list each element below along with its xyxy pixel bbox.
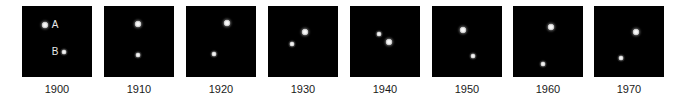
star-b xyxy=(471,54,476,59)
frame-1950: 1950 xyxy=(432,0,514,102)
star-field-panel xyxy=(268,6,338,77)
star-a xyxy=(302,29,309,36)
star-a xyxy=(548,24,555,31)
frame-1910: 1910 xyxy=(104,0,186,102)
star-a-label: A xyxy=(52,20,59,30)
star-field-panel: A B xyxy=(22,6,92,77)
star-b xyxy=(290,42,295,47)
star-b xyxy=(212,52,217,57)
star-field-panel xyxy=(350,6,420,77)
frame-1970: 1970 xyxy=(594,0,676,102)
frame-1900: A B 1900 xyxy=(22,0,104,102)
frame-1960: 1960 xyxy=(513,0,595,102)
star-a xyxy=(135,21,142,28)
year-label: 1920 xyxy=(186,82,256,96)
star-b xyxy=(541,62,546,67)
star-field-panel xyxy=(513,6,583,77)
star-b xyxy=(136,53,141,58)
frame-1920: 1920 xyxy=(186,0,268,102)
year-label: 1910 xyxy=(104,82,174,96)
frame-1940: 1940 xyxy=(350,0,432,102)
star-b xyxy=(62,50,67,55)
star-field-panel xyxy=(186,6,256,77)
year-label: 1970 xyxy=(594,82,664,96)
star-a xyxy=(460,27,467,34)
frame-1930: 1930 xyxy=(268,0,350,102)
year-label: 1900 xyxy=(22,82,92,96)
year-label: 1930 xyxy=(268,82,338,96)
star-a xyxy=(386,39,393,46)
year-label: 1940 xyxy=(350,82,420,96)
star-a xyxy=(633,29,640,36)
star-field-panel xyxy=(104,6,174,77)
star-field-panel xyxy=(432,6,502,77)
star-field-panel xyxy=(594,6,664,77)
star-b xyxy=(619,56,624,61)
star-b-label: B xyxy=(52,47,59,57)
star-b xyxy=(377,32,382,37)
star-a xyxy=(224,20,231,27)
year-label: 1960 xyxy=(513,82,583,96)
star-a xyxy=(42,22,49,29)
year-label: 1950 xyxy=(432,82,502,96)
